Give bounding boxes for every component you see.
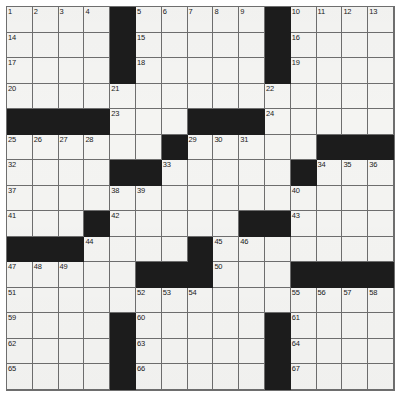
grid-cell[interactable]: 47 xyxy=(7,262,33,288)
grid-cell[interactable] xyxy=(317,58,343,84)
grid-cell[interactable]: 27 xyxy=(59,135,85,161)
grid-cell[interactable] xyxy=(136,211,162,237)
grid-cell[interactable]: 37 xyxy=(7,186,33,212)
grid-cell[interactable]: 23 xyxy=(110,109,136,135)
grid-cell[interactable] xyxy=(368,84,394,110)
grid-cell[interactable] xyxy=(239,262,265,288)
grid-cell[interactable]: 44 xyxy=(84,237,110,263)
grid-cell[interactable]: 57 xyxy=(342,288,368,314)
grid-cell[interactable] xyxy=(188,160,214,186)
grid-cell[interactable]: 66 xyxy=(136,364,162,390)
grid-cell[interactable] xyxy=(368,186,394,212)
grid-cell[interactable]: 31 xyxy=(239,135,265,161)
grid-cell[interactable]: 63 xyxy=(136,339,162,365)
grid-cell[interactable] xyxy=(136,109,162,135)
grid-cell[interactable] xyxy=(110,135,136,161)
grid-cell[interactable] xyxy=(342,313,368,339)
grid-cell[interactable] xyxy=(342,211,368,237)
grid-cell[interactable] xyxy=(368,33,394,59)
grid-cell[interactable] xyxy=(33,211,59,237)
grid-cell[interactable] xyxy=(239,313,265,339)
grid-cell[interactable] xyxy=(59,211,85,237)
grid-cell[interactable] xyxy=(33,364,59,390)
grid-cell[interactable]: 65 xyxy=(7,364,33,390)
grid-cell[interactable] xyxy=(239,84,265,110)
crossword-grid[interactable]: 1234567891011121314151617181920212223242… xyxy=(6,6,395,391)
grid-cell[interactable] xyxy=(213,288,239,314)
grid-cell[interactable]: 33 xyxy=(162,160,188,186)
grid-cell[interactable] xyxy=(110,262,136,288)
grid-cell[interactable] xyxy=(188,313,214,339)
grid-cell[interactable] xyxy=(162,313,188,339)
grid-cell[interactable]: 56 xyxy=(317,288,343,314)
grid-cell[interactable]: 26 xyxy=(33,135,59,161)
grid-cell[interactable] xyxy=(162,33,188,59)
grid-cell[interactable] xyxy=(59,84,85,110)
grid-cell[interactable] xyxy=(368,211,394,237)
grid-cell[interactable]: 4 xyxy=(84,7,110,33)
grid-cell[interactable]: 29 xyxy=(188,135,214,161)
grid-cell[interactable]: 19 xyxy=(291,58,317,84)
grid-cell[interactable] xyxy=(84,313,110,339)
grid-cell[interactable] xyxy=(162,364,188,390)
grid-cell[interactable] xyxy=(84,186,110,212)
grid-cell[interactable]: 5 xyxy=(136,7,162,33)
grid-cell[interactable] xyxy=(213,211,239,237)
grid-cell[interactable]: 9 xyxy=(239,7,265,33)
grid-cell[interactable] xyxy=(33,313,59,339)
grid-cell[interactable]: 16 xyxy=(291,33,317,59)
grid-cell[interactable]: 2 xyxy=(33,7,59,33)
grid-cell[interactable] xyxy=(33,84,59,110)
grid-cell[interactable] xyxy=(59,288,85,314)
grid-cell[interactable] xyxy=(59,339,85,365)
grid-cell[interactable] xyxy=(59,58,85,84)
grid-cell[interactable] xyxy=(239,364,265,390)
grid-cell[interactable] xyxy=(84,339,110,365)
grid-cell[interactable] xyxy=(342,33,368,59)
grid-cell[interactable] xyxy=(188,339,214,365)
grid-cell[interactable]: 45 xyxy=(213,237,239,263)
grid-cell[interactable] xyxy=(33,33,59,59)
grid-cell[interactable] xyxy=(162,109,188,135)
grid-cell[interactable]: 17 xyxy=(7,58,33,84)
grid-cell[interactable] xyxy=(368,237,394,263)
grid-cell[interactable] xyxy=(317,109,343,135)
grid-cell[interactable] xyxy=(317,84,343,110)
grid-cell[interactable]: 55 xyxy=(291,288,317,314)
grid-cell[interactable] xyxy=(59,364,85,390)
grid-cell[interactable]: 8 xyxy=(213,7,239,33)
grid-cell[interactable] xyxy=(239,160,265,186)
grid-cell[interactable] xyxy=(188,58,214,84)
grid-cell[interactable] xyxy=(84,84,110,110)
grid-cell[interactable] xyxy=(368,339,394,365)
grid-cell[interactable]: 67 xyxy=(291,364,317,390)
grid-cell[interactable] xyxy=(84,33,110,59)
grid-cell[interactable]: 49 xyxy=(59,262,85,288)
grid-cell[interactable]: 50 xyxy=(213,262,239,288)
grid-cell[interactable] xyxy=(136,237,162,263)
grid-cell[interactable] xyxy=(162,186,188,212)
grid-cell[interactable]: 1 xyxy=(7,7,33,33)
grid-cell[interactable] xyxy=(239,288,265,314)
grid-cell[interactable]: 3 xyxy=(59,7,85,33)
grid-cell[interactable]: 64 xyxy=(291,339,317,365)
grid-cell[interactable] xyxy=(265,288,291,314)
grid-cell[interactable] xyxy=(162,237,188,263)
grid-cell[interactable]: 24 xyxy=(265,109,291,135)
grid-cell[interactable]: 6 xyxy=(162,7,188,33)
grid-cell[interactable]: 15 xyxy=(136,33,162,59)
grid-cell[interactable] xyxy=(317,313,343,339)
grid-cell[interactable] xyxy=(368,58,394,84)
grid-cell[interactable] xyxy=(291,135,317,161)
grid-cell[interactable]: 61 xyxy=(291,313,317,339)
grid-cell[interactable] xyxy=(368,313,394,339)
grid-cell[interactable] xyxy=(213,33,239,59)
grid-cell[interactable] xyxy=(59,313,85,339)
grid-cell[interactable]: 36 xyxy=(368,160,394,186)
grid-cell[interactable] xyxy=(162,58,188,84)
grid-cell[interactable] xyxy=(239,186,265,212)
grid-cell[interactable]: 7 xyxy=(188,7,214,33)
grid-cell[interactable] xyxy=(188,364,214,390)
grid-cell[interactable] xyxy=(239,33,265,59)
grid-cell[interactable]: 25 xyxy=(7,135,33,161)
